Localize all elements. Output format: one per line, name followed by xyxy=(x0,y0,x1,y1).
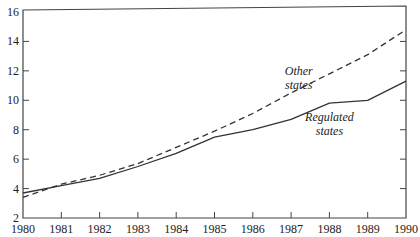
series-annotations: OtherstatesRegulatedstates xyxy=(285,64,355,138)
other-states-label: Other xyxy=(285,64,313,78)
y-tick-label: 12 xyxy=(7,64,19,78)
x-tick-label: 1990 xyxy=(394,222,418,236)
x-tick-label: 1981 xyxy=(49,222,73,236)
other-states-label: states xyxy=(285,78,313,92)
x-tick-label: 1983 xyxy=(126,222,150,236)
y-tick-label: 14 xyxy=(7,34,19,48)
y-tick-label: 4 xyxy=(13,182,19,196)
y-tick-label: 10 xyxy=(7,93,19,107)
x-tick-label: 1987 xyxy=(279,222,303,236)
y-tick-label: 6 xyxy=(13,152,19,166)
x-axis: 1980198119821983198419851986198719881989… xyxy=(11,212,418,236)
regulated-states-line xyxy=(23,81,406,193)
y-tick-label: 16 xyxy=(7,5,19,19)
x-tick-label: 1980 xyxy=(11,222,35,236)
regulated-states-label: Regulated xyxy=(304,110,355,124)
y-tick-label: 8 xyxy=(13,123,19,137)
x-tick-label: 1982 xyxy=(88,222,112,236)
x-tick-label: 1985 xyxy=(203,222,227,236)
line-chart: 246810121416 198019811982198319841985198… xyxy=(0,0,420,237)
chart-svg: 246810121416 198019811982198319841985198… xyxy=(0,0,420,237)
x-tick-label: 1986 xyxy=(241,222,265,236)
x-tick-label: 1984 xyxy=(164,222,188,236)
regulated-states-label: states xyxy=(316,124,344,138)
x-tick-label: 1989 xyxy=(356,222,380,236)
x-tick-label: 1988 xyxy=(317,222,341,236)
